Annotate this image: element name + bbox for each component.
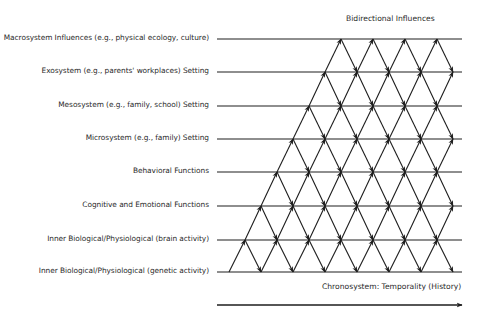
influence-arrow (325, 206, 341, 240)
influence-arrow (437, 106, 453, 139)
influence-arrow (405, 240, 421, 272)
influence-arrow (293, 240, 309, 272)
influence-arrow (389, 72, 405, 106)
influence-arrow (357, 106, 373, 139)
influence-arrow (373, 106, 389, 139)
influence-arrow (261, 240, 277, 272)
influence-arrow (341, 240, 357, 272)
influence-arrow (405, 139, 421, 172)
influence-arrow (373, 172, 389, 206)
influence-arrow (293, 206, 309, 240)
influence-arrow (309, 72, 325, 106)
influence-arrow (357, 172, 373, 206)
influence-arrow (341, 72, 357, 106)
influence-arrow (421, 72, 437, 106)
influence-arrow (325, 39, 341, 72)
influence-arrow (325, 72, 341, 106)
influence-arrow (389, 139, 405, 172)
influence-arrow (357, 240, 373, 272)
influence-arrow (389, 106, 405, 139)
influence-arrow (357, 139, 373, 172)
influence-arrow (405, 106, 421, 139)
influence-arrow (437, 72, 453, 106)
influence-arrow (389, 172, 405, 206)
influence-arrow (341, 39, 357, 72)
influence-arrow (373, 206, 389, 240)
influence-arrow (405, 206, 421, 240)
influence-arrow (389, 240, 405, 272)
influence-arrow (357, 206, 373, 240)
influence-arrow (341, 106, 357, 139)
influence-arrow (389, 206, 405, 240)
influence-arrow (277, 139, 293, 172)
influence-arrow (325, 240, 341, 272)
influence-arrow (373, 72, 389, 106)
influence-arrow (229, 240, 245, 272)
influence-arrow (389, 39, 405, 72)
influence-arrow (405, 39, 421, 72)
influence-arrow (357, 39, 373, 72)
influence-arrow (437, 172, 453, 206)
influence-arrow (277, 240, 293, 272)
influence-arrow (437, 139, 453, 172)
influence-arrow (405, 72, 421, 106)
influence-arrow (341, 206, 357, 240)
influence-arrows (229, 39, 453, 272)
influence-arrow (325, 106, 341, 139)
influence-arrow (421, 172, 437, 206)
influence-arrow (373, 39, 389, 72)
influence-arrow (421, 206, 437, 240)
influence-arrow (373, 240, 389, 272)
influence-arrow (437, 39, 453, 72)
influence-arrow (341, 172, 357, 206)
influence-arrow (245, 206, 261, 240)
influence-arrow (309, 206, 325, 240)
influence-arrow (309, 240, 325, 272)
influence-arrow (277, 206, 293, 240)
influence-arrow (357, 72, 373, 106)
influence-arrow (373, 139, 389, 172)
influence-arrow (341, 139, 357, 172)
influence-arrow (325, 172, 341, 206)
influence-arrow (293, 172, 309, 206)
bidirectional-lattice (0, 0, 481, 324)
influence-arrow (293, 106, 309, 139)
influence-arrow (261, 206, 277, 240)
influence-arrow (245, 240, 261, 272)
influence-arrow (421, 106, 437, 139)
influence-arrow (261, 172, 277, 206)
influence-arrow (421, 240, 437, 272)
influence-arrow (325, 139, 341, 172)
influence-arrow (421, 139, 437, 172)
influence-arrow (437, 240, 453, 272)
influence-arrow (293, 139, 309, 172)
influence-arrow (309, 106, 325, 139)
influence-arrow (437, 206, 453, 240)
influence-arrow (405, 172, 421, 206)
influence-arrow (277, 172, 293, 206)
influence-arrow (421, 39, 437, 72)
influence-arrow (309, 139, 325, 172)
influence-arrow (309, 172, 325, 206)
